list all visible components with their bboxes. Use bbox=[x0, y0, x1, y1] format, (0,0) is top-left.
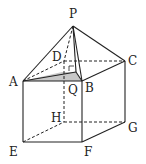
geometry-figure: P D C A Q B H G E F bbox=[0, 0, 146, 164]
label-Q: Q bbox=[68, 83, 78, 97]
edge-BC bbox=[82, 61, 125, 81]
label-E: E bbox=[9, 145, 18, 159]
label-H: H bbox=[51, 111, 61, 125]
label-C: C bbox=[128, 54, 137, 68]
hidden-edge-EH bbox=[23, 122, 64, 142]
label-A: A bbox=[8, 75, 18, 89]
label-G: G bbox=[128, 121, 138, 135]
edge-PC bbox=[73, 26, 125, 61]
label-D: D bbox=[52, 50, 62, 64]
edge-FG bbox=[82, 122, 125, 142]
right-angle-mark bbox=[69, 66, 74, 71]
label-B: B bbox=[85, 81, 94, 95]
label-F: F bbox=[84, 145, 92, 159]
label-P: P bbox=[69, 7, 77, 21]
